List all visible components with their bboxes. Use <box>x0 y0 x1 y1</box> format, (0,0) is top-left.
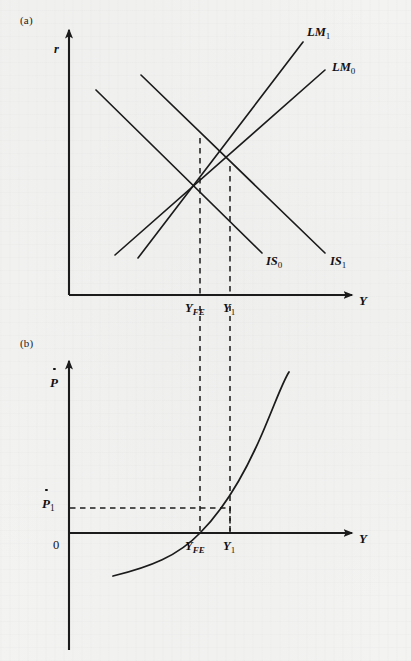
panel-a-xtick-y-fe: YFE <box>185 301 205 317</box>
panel-b-ytick-p-dot-1: P 1 <box>42 496 55 513</box>
panel-b-guide-lines <box>70 508 231 533</box>
panel-b-origin-label: 0 <box>53 538 59 553</box>
panel-b-tag: (b) <box>20 337 33 349</box>
lm1-curve-label: LM1 <box>307 25 330 41</box>
is0-label-subscript: 0 <box>278 260 283 270</box>
panel-a-x-axis-label: Y <box>359 293 367 309</box>
panel-a-tag: (a) <box>20 14 33 26</box>
inter-panel-guide-lines <box>200 306 230 533</box>
panel-b-xtick-y-1: Y1 <box>223 539 235 555</box>
is0-curve-label: IS0 <box>266 254 282 270</box>
panel-b-y-axis-label: P <box>50 375 58 391</box>
is1-curve <box>141 75 325 253</box>
lm0-label-subscript: 0 <box>351 66 356 76</box>
diagram-vector-layer <box>0 0 411 661</box>
panel-a-curves <box>96 42 325 258</box>
figure-canvas: (a) r Y LM1 LM0 IS0 IS1 YFE Y1 (b) P Y P… <box>0 0 411 661</box>
lm1-label-text: LM <box>307 25 326 39</box>
panel-b-ytick-dot-accent <box>45 489 48 492</box>
is1-label-subscript: 1 <box>342 260 347 270</box>
panel-a-xtick-y-fe-text: Y <box>185 301 193 315</box>
panel-b-ytick-p-dot-1-subscript: 1 <box>50 503 55 513</box>
lm0-curve-label: LM0 <box>332 60 355 76</box>
panel-a-xtick-y-1-text: Y <box>223 301 231 315</box>
panel-b-xtick-y-1-subscript: 1 <box>231 545 236 555</box>
panel-b-y-axis-dot-accent <box>53 368 56 371</box>
panel-a-y-axis-label: r <box>54 42 59 57</box>
panel-b-x-axis-label: Y <box>359 531 367 547</box>
panel-b-axes <box>69 361 352 650</box>
lm1-label-subscript: 1 <box>326 31 331 41</box>
is1-curve-label: IS1 <box>330 254 346 270</box>
panel-b-xtick-y-1-text: Y <box>223 539 231 553</box>
panel-b-xtick-y-fe-text: Y <box>185 539 193 553</box>
panel-b-ytick-p-dot-1-text: P <box>42 496 50 511</box>
is0-label-text: IS <box>266 254 278 268</box>
panel-b-xtick-y-fe-subscript: FE <box>193 545 205 555</box>
panel-a-xtick-y-fe-subscript: FE <box>193 307 205 317</box>
lm0-label-text: LM <box>332 60 351 74</box>
lm0-curve <box>115 70 325 255</box>
panel-a-xtick-y-1-subscript: 1 <box>231 307 236 317</box>
is1-label-text: IS <box>330 254 342 268</box>
panel-b-xtick-y-fe: YFE <box>185 539 205 555</box>
lm1-curve <box>138 42 303 258</box>
is0-curve <box>96 90 262 253</box>
panel-b-y-axis-label-text: P <box>50 375 58 390</box>
panel-a-xtick-y-1: Y1 <box>223 301 235 317</box>
